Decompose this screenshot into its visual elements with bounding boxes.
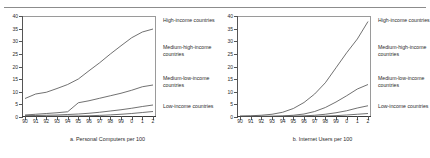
legend-item-low-income: Low-income countries [378, 103, 428, 110]
x-tick-label: 98 [108, 119, 114, 124]
x-tick-label: 94 [280, 119, 286, 124]
y-tick-label: 5 [15, 102, 18, 107]
x-tick-label: 96 [86, 119, 92, 124]
y-tick-label: 15 [227, 77, 233, 82]
x-tick-label: 99 [333, 119, 339, 124]
x-tick-label: 90 [22, 119, 28, 124]
y-tick-label: 40 [12, 14, 18, 19]
x-tick-label: 2 [367, 119, 370, 124]
series-line [25, 85, 153, 115]
x-tick-label: 97 [97, 119, 103, 124]
header-rule [4, 7, 426, 8]
series-line [240, 85, 368, 117]
legend-item-medium-high-income: Medium-high-income countries [378, 44, 430, 57]
legend-item-medium-low-income: Medium-low-income countries [163, 75, 215, 88]
y-tick-label: 35 [227, 27, 233, 32]
chart-panel-a: 0510152025303540 90919293949596979899012… [0, 12, 215, 158]
legend-item-low-income: Low-income countries [163, 103, 213, 110]
x-tick-label: 90 [237, 119, 243, 124]
legend-item-high-income: High-income countries [378, 17, 430, 24]
y-tick-label: 40 [227, 14, 233, 19]
caption-a: a. Personal Computers per 100 [0, 136, 215, 143]
y-tick-label: 20 [12, 65, 18, 70]
x-tick-label: 99 [118, 119, 124, 124]
y-tick-label: 30 [227, 39, 233, 44]
x-tick-label: 91 [248, 119, 254, 124]
y-tick-label: 25 [227, 52, 233, 57]
x-tick-label: 92 [259, 119, 265, 124]
y-tick-label: 35 [12, 27, 18, 32]
series-line [25, 105, 153, 116]
y-tick-label: 0 [15, 115, 18, 120]
x-tick-label: 0 [130, 119, 133, 124]
x-tick-label: 1 [141, 119, 144, 124]
y-tick-label: 10 [12, 90, 18, 95]
legend-item-medium-high-income: Medium-high-income countries [163, 44, 215, 57]
x-tick-label: 1 [356, 119, 359, 124]
x-tick-label: 0 [345, 119, 348, 124]
legend-item-medium-low-income: Medium-low-income countries [378, 75, 430, 88]
series-lines-b [237, 16, 371, 117]
y-tick-label: 30 [12, 39, 18, 44]
y-tick-label: 15 [12, 77, 18, 82]
x-tick-label: 93 [54, 119, 60, 124]
series-line [240, 22, 368, 117]
y-tick-label: 5 [230, 102, 233, 107]
plot-area-a: 0510152025303540 90919293949596979899012 [22, 16, 156, 117]
x-tick-label: 2 [152, 119, 155, 124]
y-tick-label: 10 [227, 90, 233, 95]
y-tick-label: 20 [227, 65, 233, 70]
series-lines-a [22, 16, 156, 117]
x-tick-label: 95 [76, 119, 82, 124]
x-tick-label: 92 [44, 119, 50, 124]
series-line [25, 29, 153, 99]
x-tick-label: 98 [323, 119, 329, 124]
x-tick-label: 96 [301, 119, 307, 124]
legend-item-high-income: High-income countries [163, 17, 215, 24]
x-tick-label: 93 [269, 119, 275, 124]
x-tick-label: 91 [33, 119, 39, 124]
x-tick-label: 94 [65, 119, 71, 124]
y-tick-label: 0 [230, 115, 233, 120]
x-tick-label: 95 [291, 119, 297, 124]
x-tick-label: 97 [312, 119, 318, 124]
y-tick-label: 25 [12, 52, 18, 57]
caption-b: b. Internet Users per 100 [215, 136, 430, 143]
chart-panel-b: 0510152025303540 90919293949596979899012… [215, 12, 430, 158]
plot-area-b: 0510152025303540 90919293949596979899012 [237, 16, 371, 117]
